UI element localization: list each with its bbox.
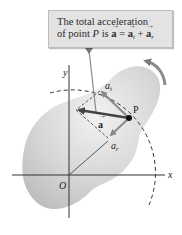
- a-r-subscript: r: [116, 145, 119, 153]
- vector-at-symbol: a: [128, 28, 133, 40]
- callout-total-acceleration: The total acceleration of point P is a =…: [48, 10, 173, 48]
- point-p: [126, 115, 132, 121]
- tangential-acceleration-label: at: [105, 80, 112, 93]
- rigid-body-shape: [22, 66, 160, 209]
- plus-sign: +: [135, 28, 146, 39]
- callout-text: of point: [57, 28, 93, 39]
- radial-acceleration-label: ar: [111, 140, 119, 153]
- vector-a-symbol: a: [111, 28, 116, 40]
- callout-pointer-tip: [85, 48, 93, 54]
- origin-label: O: [59, 180, 66, 191]
- point-p-label: P: [133, 104, 139, 115]
- total-acceleration-label: a: [98, 119, 103, 130]
- y-axis-label: y: [63, 67, 67, 78]
- x-axis-label: x: [168, 169, 172, 180]
- callout-line-2: of point P is a = at + ar: [57, 28, 172, 43]
- subscript-r: r: [151, 33, 154, 41]
- callout-text: is: [99, 28, 111, 39]
- vector-ar-symbol: a: [146, 28, 151, 40]
- a-t-subscript: t: [110, 85, 112, 93]
